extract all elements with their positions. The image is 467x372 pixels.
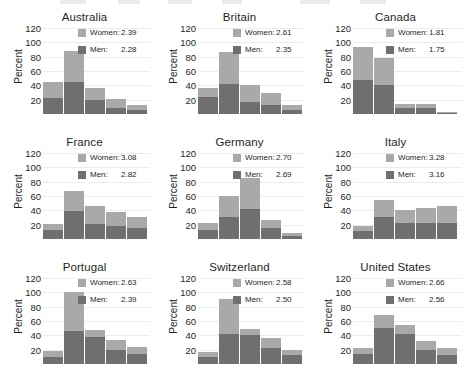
bar-segment-men [240,102,260,114]
legend-swatch-women-icon [386,279,394,287]
bar-segment-men [127,110,147,114]
panel-title: Portugal [0,259,155,273]
legend-value-women: 2.70 [276,154,292,162]
stacked-bar [127,105,147,114]
y-axis-ticks: 20406080100120 [177,153,196,239]
y-tick-label: 40 [185,80,196,91]
legend-item-women: Women:2.63 [78,279,137,287]
y-tick-label: 100 [25,162,41,173]
y-tick-label: 120 [25,23,41,34]
y-tick-label: 40 [185,205,196,216]
chart-panel-switzerland: SwitzerlandPercent20406080100120Women:2.… [155,259,310,372]
bar-segment-women [395,210,415,224]
legend-value-women: 2.63 [121,279,137,287]
stacked-bar [353,226,373,239]
stacked-bar [240,329,260,364]
stacked-bar [85,330,105,364]
y-axis-ticks: 20406080100120 [22,28,41,114]
y-tick-label: 80 [340,51,351,62]
bar-segment-women [219,196,239,217]
stacked-bar [64,191,84,239]
legend-label-women: Women: [90,279,121,287]
bar-segment-men [437,355,457,364]
bar-segment-women [240,85,260,102]
bar-segment-men [395,108,415,114]
legend-value-women: 2.58 [276,279,292,287]
bar-segment-women [437,206,457,222]
stacked-bar [437,348,457,364]
legend-value-men: 2.39 [121,296,137,304]
y-tick-label: 80 [30,51,41,62]
clipped-bar-remnant [222,0,242,4]
legend-label-men: Men: [398,46,429,54]
y-tick-label: 100 [335,287,351,298]
stacked-bar [106,212,126,239]
y-tick-label: 80 [340,176,351,187]
legend: Women:2.70Men:2.69 [233,154,292,188]
legend-swatch-men-icon [386,171,394,179]
bar-segment-men [282,236,302,239]
y-tick-label: 40 [340,330,351,341]
legend-label-women: Women: [398,29,429,37]
bar-segment-men [395,334,415,364]
y-axis-ticks: 20406080100120 [332,153,351,239]
y-tick-label: 60 [340,191,351,202]
bar-segment-men [395,223,415,239]
legend-label-men: Men: [245,46,276,54]
legend-value-women: 2.66 [429,279,445,287]
stacked-bar [127,347,147,364]
bar-segment-men [374,328,394,364]
legend-item-women: Women:3.08 [78,154,137,162]
stacked-bar [127,217,147,239]
legend-value-women: 2.39 [121,29,137,37]
bar-segment-women [416,208,436,223]
legend: Women:1.81Men:1.75 [386,29,445,63]
bar-segment-men [85,224,105,239]
legend-label-men: Men: [90,46,121,54]
bar-segment-men [353,231,373,239]
legend-swatch-women-icon [386,29,394,37]
bar-segment-men [416,223,436,239]
y-tick-label: 60 [185,191,196,202]
chart-panel-britain: BritainPercent20406080100120Women:2.61Me… [155,9,310,134]
bar-segment-women [106,340,126,349]
y-tick-label: 20 [185,219,196,230]
legend-value-men: 3.16 [429,171,445,179]
y-tick-label: 80 [30,301,41,312]
legend-item-women: Women:2.58 [233,279,292,287]
bar-segment-women [106,99,126,108]
y-axis-ticks: 20406080100120 [22,278,41,364]
legend-swatch-men-icon [233,171,241,179]
legend-swatch-women-icon [78,154,86,162]
legend-item-men: Men:3.16 [386,171,445,179]
y-tick-label: 60 [30,66,41,77]
legend-value-men: 2.82 [121,171,137,179]
chart-panel-germany: GermanyPercent20406080100120Women:2.70Me… [155,134,310,259]
stacked-bar [353,348,373,364]
panel-title: Switzerland [155,259,310,273]
y-tick-label: 40 [30,80,41,91]
stacked-bar [261,338,281,364]
legend: Women:3.28Men:3.16 [386,154,445,188]
legend-label-men: Men: [245,296,276,304]
legend-swatch-men-icon [233,296,241,304]
chart-panel-australia: AustraliaPercent20406080100120Women:2.39… [0,9,155,134]
bar-segment-men [240,209,260,239]
bar-segment-men [198,230,218,239]
bar-segment-men [437,223,457,239]
y-tick-label: 40 [340,205,351,216]
bar-segment-women [261,338,281,348]
bar-segment-women [374,315,394,328]
top-cutoff-artifact [0,0,467,9]
bar-segment-men [85,100,105,114]
stacked-bar [85,206,105,239]
legend-swatch-men-icon [78,46,86,54]
legend-label-women: Women: [90,29,121,37]
bar-segment-men [85,337,105,364]
legend-value-men: 2.28 [121,46,137,54]
stacked-bar [395,325,415,364]
legend-item-women: Women:2.61 [233,29,292,37]
bar-segment-men [64,211,84,239]
bar-segment-men [106,108,126,114]
y-tick-label: 120 [180,148,196,159]
